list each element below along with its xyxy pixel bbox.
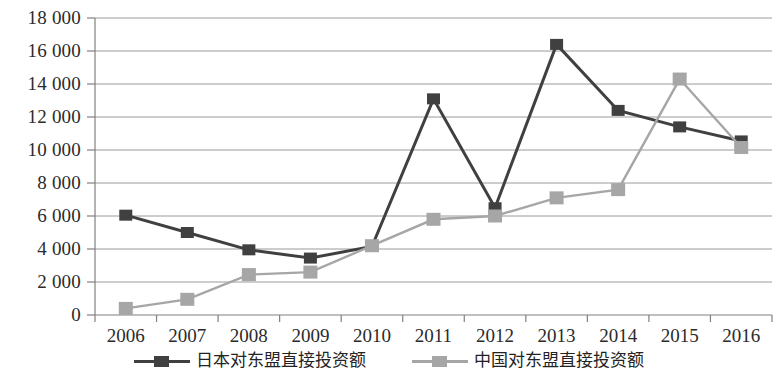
data-point-marker[interactable] [611, 183, 625, 196]
x-tick-label: 2011 [403, 326, 465, 345]
x-tick-label: 2015 [649, 326, 711, 345]
data-point-marker[interactable] [180, 293, 194, 306]
data-point-marker[interactable] [242, 268, 256, 281]
y-tick-label: 14 000 [0, 74, 81, 93]
legend-marker-japan-icon [134, 353, 190, 369]
x-tick-label: 2010 [341, 326, 403, 345]
x-tick-label: 2014 [587, 326, 649, 345]
x-tick-label: 2013 [526, 326, 588, 345]
x-tick-label: 2006 [95, 326, 157, 345]
data-point-marker[interactable] [550, 39, 563, 50]
data-point-marker[interactable] [181, 227, 194, 238]
data-point-marker[interactable] [303, 266, 317, 279]
x-tick-label: 2012 [464, 326, 526, 345]
data-point-marker[interactable] [365, 239, 379, 252]
y-tick-label: 2 000 [0, 272, 81, 291]
y-tick-label: 18 000 [0, 8, 81, 27]
x-tick-label: 2009 [280, 326, 342, 345]
legend-label-japan: 日本对东盟直接投资额 [196, 352, 366, 370]
line-chart: 18 00016 00014 00012 00010 0008 0006 000… [0, 0, 777, 376]
y-tick-label: 10 000 [0, 140, 81, 159]
data-point-marker[interactable] [119, 210, 132, 221]
plot-area [0, 0, 777, 376]
data-point-marker[interactable] [550, 191, 564, 204]
legend-label-china: 中国对东盟直接投资额 [474, 352, 644, 370]
x-tick-label: 2016 [710, 326, 772, 345]
data-point-marker[interactable] [673, 121, 686, 132]
y-tick-label: 0 [0, 305, 81, 324]
chart-legend: 日本对东盟直接投资额 中国对东盟直接投资额 [0, 346, 777, 376]
x-tick-label: 2008 [218, 326, 280, 345]
series-line-japan [126, 44, 741, 258]
axis-ticks [87, 18, 772, 322]
data-point-marker[interactable] [734, 141, 748, 154]
series-line-china [126, 79, 741, 308]
data-point-marker[interactable] [242, 244, 255, 255]
legend-marker-china-icon [412, 353, 468, 369]
y-tick-label: 12 000 [0, 107, 81, 126]
data-point-marker[interactable] [427, 213, 441, 226]
data-point-marker[interactable] [673, 73, 687, 86]
y-tick-label: 6 000 [0, 206, 81, 225]
data-point-marker[interactable] [488, 210, 502, 223]
gridlines [95, 18, 772, 282]
series-layer [119, 39, 748, 315]
legend-item-china[interactable]: 中国对东盟直接投资额 [412, 352, 644, 370]
legend-item-japan[interactable]: 日本对东盟直接投资额 [134, 352, 366, 370]
y-tick-label: 4 000 [0, 239, 81, 258]
y-tick-label: 8 000 [0, 173, 81, 192]
x-tick-label: 2007 [157, 326, 219, 345]
y-tick-label: 16 000 [0, 41, 81, 60]
data-point-marker[interactable] [119, 302, 133, 315]
data-point-marker[interactable] [304, 253, 317, 264]
data-point-marker[interactable] [612, 105, 625, 116]
data-point-marker[interactable] [427, 93, 440, 104]
